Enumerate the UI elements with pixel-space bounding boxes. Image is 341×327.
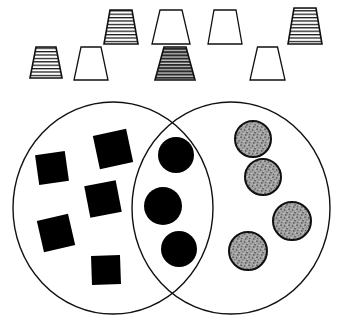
right-only-stipple-circle-4	[229, 232, 267, 270]
intersection-circle-1	[158, 137, 194, 173]
right-only-stipple-circle-3	[273, 202, 311, 240]
right-only-stipple-circle-2	[245, 159, 281, 195]
left-only-square-3	[84, 180, 122, 218]
figure-root	[0, 0, 341, 327]
intersection-circle-3	[161, 231, 197, 267]
left-only-square-5	[91, 255, 121, 285]
figure-canvas	[0, 0, 341, 327]
trapezoid-3	[104, 10, 138, 44]
intersection-circle-2	[144, 187, 182, 225]
right-only-stipple-circle-1	[235, 121, 271, 157]
left-only-square-1	[35, 151, 69, 185]
trapezoid-1	[30, 47, 62, 78]
left-only-square-2	[93, 129, 133, 169]
trapezoid-8	[288, 8, 322, 44]
trapezoid-5	[208, 10, 242, 44]
